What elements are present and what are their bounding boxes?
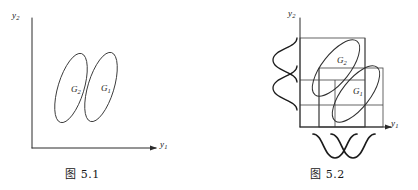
figure-5-2-group-label-g1: G1 — [353, 86, 363, 96]
figure-5-1-group-label-g2: G2 — [71, 84, 81, 94]
figure-5-2-caption: 图 5.2 — [223, 165, 418, 181]
marginal-density-bottom-g1 — [331, 134, 375, 158]
marginal-density-left-g2 — [273, 38, 297, 82]
figure-5-2-graphic — [209, 0, 418, 190]
figure-5-1-group-label-g1: G1 — [101, 83, 111, 93]
figure-sheet: y2 y1 G2 G1 图 5.1 — [0, 0, 418, 190]
figure-5-2-group-label-g2: G2 — [337, 55, 347, 65]
figure-5-1-y1-axis-label: y1 — [160, 139, 167, 149]
marginal-density-left-g1 — [273, 66, 297, 110]
figure-5-2-y2-axis-label: y2 — [288, 8, 295, 18]
figure-5-1-y2-axis-label: y2 — [12, 10, 19, 20]
marginal-density-bottom-g2 — [313, 134, 357, 158]
figure-5-2-y1-axis-label: y1 — [391, 118, 398, 128]
figure-5-1-graphic — [0, 0, 209, 190]
figure-5-1-caption: 图 5.1 — [0, 165, 187, 181]
y1-axis-arrowhead — [150, 145, 157, 150]
figure-5-2-panel: y2 y1 G2 G1 图 5.2 — [209, 0, 418, 190]
figure-5-1-panel: y2 y1 G2 G1 图 5.1 — [0, 0, 209, 190]
